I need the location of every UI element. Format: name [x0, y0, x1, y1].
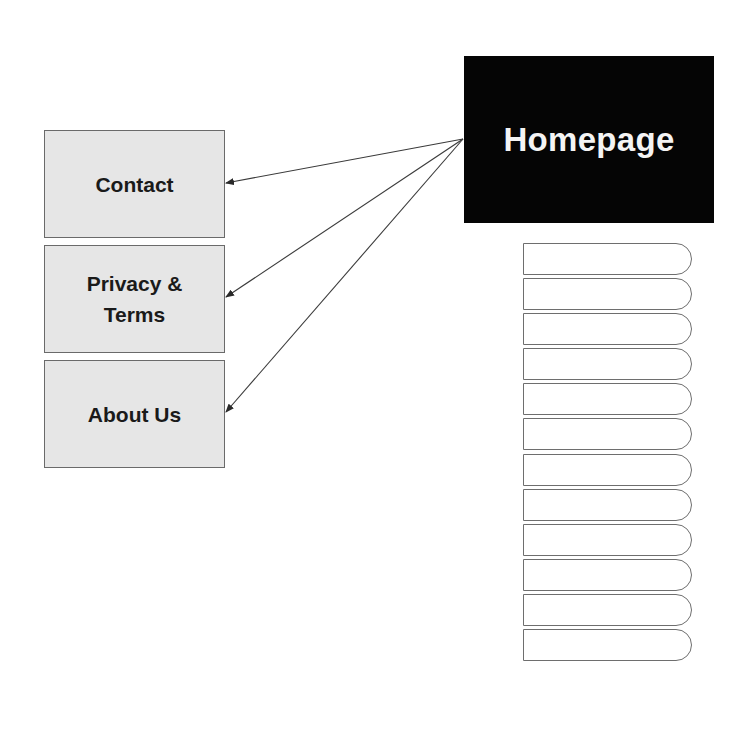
stacked-tab-8[interactable]: [523, 489, 692, 521]
stacked-tab-9[interactable]: [523, 524, 692, 556]
contact-page-node[interactable]: Contact: [44, 130, 225, 238]
arrow-homepage-to-contact: [226, 139, 463, 183]
about-us-label: About Us: [88, 399, 181, 430]
contact-label: Contact: [95, 169, 173, 200]
stacked-tab-12[interactable]: [523, 629, 692, 661]
arrow-homepage-to-privacy-terms: [226, 139, 463, 297]
stacked-tab-4[interactable]: [523, 348, 692, 380]
stacked-tab-10[interactable]: [523, 559, 692, 591]
stacked-tab-3[interactable]: [523, 313, 692, 345]
stacked-tab-11[interactable]: [523, 594, 692, 626]
stacked-tab-2[interactable]: [523, 278, 692, 310]
stacked-tab-6[interactable]: [523, 418, 692, 450]
stacked-tab-7[interactable]: [523, 454, 692, 486]
privacy-terms-page-node[interactable]: Privacy & Terms: [44, 245, 225, 353]
homepage-node[interactable]: Homepage: [464, 56, 714, 223]
stacked-tab-1[interactable]: [523, 243, 692, 275]
stacked-tabs: [523, 243, 693, 664]
arrow-homepage-to-about-us: [226, 139, 463, 412]
stacked-tab-5[interactable]: [523, 383, 692, 415]
homepage-label: Homepage: [503, 121, 674, 159]
privacy-terms-label-line-2: Terms: [87, 299, 183, 330]
about-us-page-node[interactable]: About Us: [44, 360, 225, 468]
privacy-terms-label-line-1: Privacy &: [87, 268, 183, 299]
